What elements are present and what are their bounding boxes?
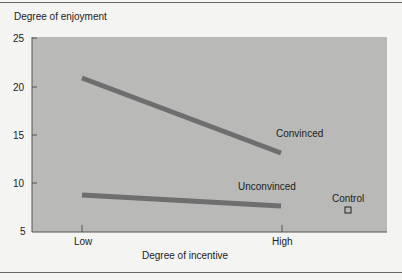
y-tick-label: 25 <box>13 33 25 44</box>
y-tick-label: 10 <box>13 178 25 189</box>
bottom-rule <box>0 272 402 273</box>
convinced-label: Convinced <box>276 128 323 139</box>
chart: 25 20 15 10 5 Low High Convinced Unconvi… <box>0 0 402 280</box>
x-tick-label-high: High <box>272 236 293 247</box>
x-tick-label-low: Low <box>74 236 93 247</box>
y-tick-label: 20 <box>13 82 25 93</box>
y-tick-label: 5 <box>20 226 26 237</box>
unconvinced-label: Unconvinced <box>238 181 296 192</box>
x-axis-label: Degree of incentive <box>142 250 228 261</box>
control-label: Control <box>332 193 364 204</box>
y-tick-label: 15 <box>13 130 25 141</box>
